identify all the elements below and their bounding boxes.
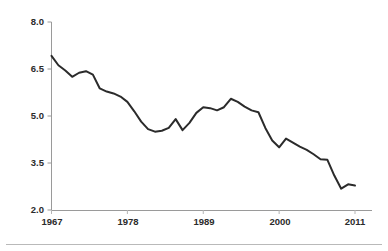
chart-figure: Copland Rent-To-Value (%) 8.0 6.5 5.0 3.…: [0, 0, 388, 251]
y-tick-marks: [48, 22, 52, 210]
data-series-line: [52, 56, 356, 189]
plot-area: [0, 0, 388, 251]
footer-divider: [6, 244, 382, 245]
